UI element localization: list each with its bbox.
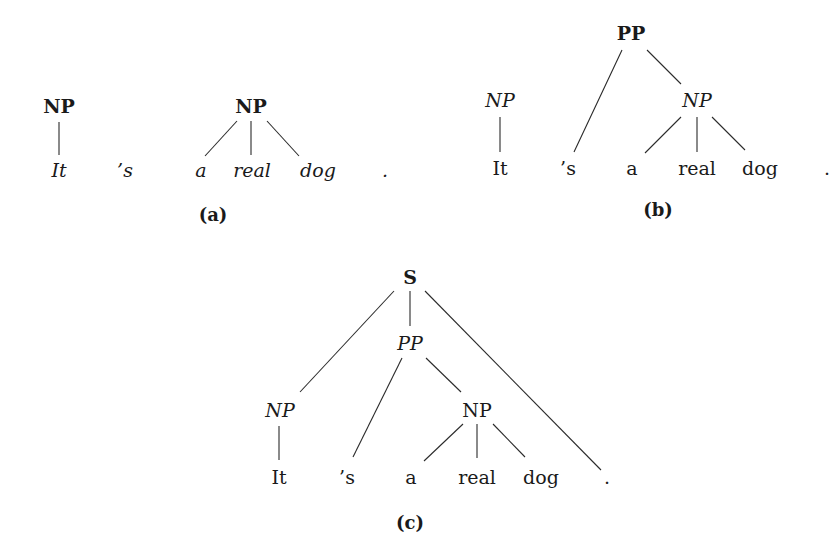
panel-a-leaf-a: a (195, 161, 206, 180)
panel-c-caption: (c) (396, 514, 424, 532)
panel-c-leaf-it: It (271, 468, 286, 487)
panel-b-leaf-real: real (678, 159, 716, 178)
panel-c-leaf-period: . (604, 468, 610, 487)
panel-a-leaf-period: . (382, 161, 388, 180)
tree-edge (300, 291, 394, 392)
tree-edge (353, 358, 402, 457)
panel-a-leaf-it: It (51, 161, 66, 180)
panel-a-node-1: NP (235, 97, 267, 116)
panel-b-node-2: NP (682, 91, 711, 110)
panel-b-caption: (b) (643, 201, 673, 219)
tree-edge (425, 291, 601, 470)
tree-edge (645, 117, 681, 153)
panel-b-node-0: PP (617, 24, 646, 43)
panel-c-leaf-dog: dog (523, 468, 559, 487)
panel-a-leaf-dog: dog (300, 161, 336, 180)
panel-a-caption: (a) (199, 206, 228, 224)
tree-edge (426, 358, 461, 392)
tree-edge (424, 424, 463, 461)
tree-edge (267, 121, 299, 156)
tree-edge (574, 50, 622, 152)
panel-c-leaf-s: ’s (339, 468, 355, 487)
panel-c-leaf-real: real (458, 468, 496, 487)
tree-edge (205, 121, 237, 156)
panel-c-leaf-a: a (405, 468, 416, 487)
panel-c-node-0: S (403, 268, 417, 287)
panel-c-node-1: PP (397, 334, 423, 353)
panel-c-node-3: NP (462, 401, 491, 420)
panel-a-leaf-real: real (233, 161, 271, 180)
tree-edge (647, 50, 681, 84)
panel-b-leaf-it: It (492, 159, 507, 178)
panel-b-leaf-s: ’s (560, 159, 576, 178)
tree-edge (493, 424, 525, 457)
panel-b-leaf-dog: dog (742, 159, 778, 178)
panel-b-leaf-period: . (824, 159, 830, 178)
panel-b-node-1: NP (485, 91, 514, 110)
panel-a-leaf-s: ’s (117, 161, 133, 180)
parse-tree-figure: NP NP It ’s a real dog . (a) PP NP NP It… (0, 0, 830, 546)
panel-b-leaf-a: a (626, 159, 637, 178)
panel-a-node-0: NP (43, 97, 75, 116)
panel-c-node-2: NP (265, 401, 294, 420)
tree-edge (712, 117, 745, 150)
